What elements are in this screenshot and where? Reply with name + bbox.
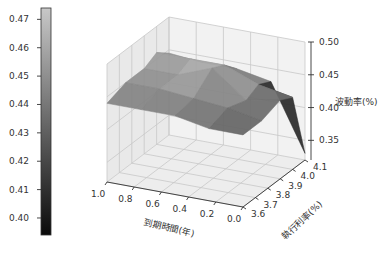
y-tick-mark: [305, 160, 308, 162]
x-tick-mark: [241, 207, 243, 210]
z-tick-label: 0.35: [319, 135, 339, 145]
colorbar-ticks: 0.400.410.420.430.440.450.460.47: [9, 14, 41, 223]
x-tick-mark: [214, 202, 216, 205]
colorbar-tick-label: 0.44: [9, 99, 29, 109]
y-tick-label: 3.7: [263, 200, 277, 210]
z-axis-title: 波動率(%): [335, 96, 378, 107]
y-tick-mark: [255, 198, 258, 200]
y-tick-mark: [280, 179, 283, 181]
x-tick-label: 0.2: [200, 209, 214, 219]
y-tick-label: 4.0: [301, 171, 316, 181]
x-tick-label: 0.6: [145, 199, 160, 209]
colorbar-tick-label: 0.45: [9, 71, 29, 81]
x-tick-label: 1.0: [91, 189, 106, 199]
y-tick-mark: [293, 169, 296, 171]
colorbar-tick-label: 0.41: [9, 185, 29, 195]
colorbar-tick-label: 0.43: [9, 128, 29, 138]
y-tick-mark: [243, 207, 246, 209]
z-tick-label: 0.50: [319, 37, 339, 47]
colorbar: 0.400.410.420.430.440.450.460.47: [9, 8, 51, 235]
y-tick-label: 4.1: [313, 162, 327, 172]
colorbar-tick-label: 0.47: [9, 14, 29, 24]
x-tick-mark: [159, 192, 161, 195]
y-axis-title: 執行利率(%): [279, 198, 324, 241]
y-tick-label: 3.6: [251, 209, 266, 219]
x-tick-mark: [187, 197, 189, 200]
surface-chart: 0.00.20.40.60.81.0 3.63.73.83.94.04.1 0.…: [0, 0, 388, 255]
x-tick-mark: [132, 187, 134, 190]
colorbar-tick-label: 0.42: [9, 156, 29, 166]
colorbar-gradient: [41, 8, 51, 235]
y-tick-label: 3.8: [276, 190, 291, 200]
y-tick-mark: [268, 188, 271, 190]
z-axis-ticks: 0.350.400.450.50: [308, 37, 339, 145]
x-tick-label: 0.4: [173, 204, 188, 214]
y-tick-label: 3.9: [288, 181, 303, 191]
colorbar-tick-label: 0.46: [9, 43, 29, 53]
colorbar-tick-label: 0.40: [9, 213, 29, 223]
x-tick-label: 0.8: [118, 194, 133, 204]
z-tick-label: 0.45: [319, 70, 339, 80]
x-tick-label: 0.0: [227, 214, 242, 224]
x-axis-title: 到期時間(年): [143, 216, 196, 238]
x-tick-mark: [105, 182, 107, 185]
